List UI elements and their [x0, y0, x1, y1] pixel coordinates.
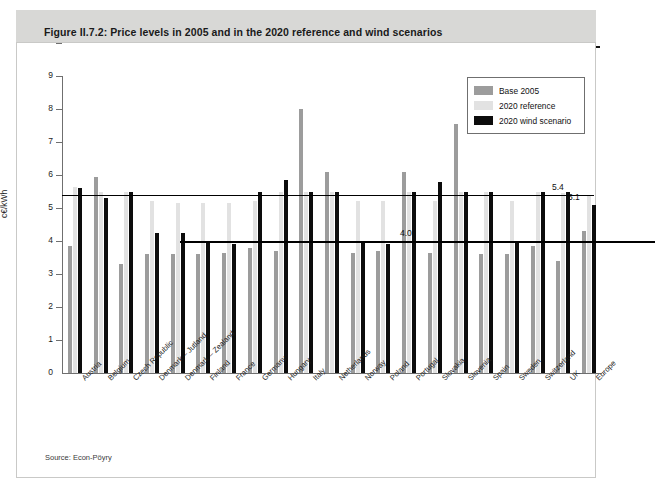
bar-base	[505, 254, 509, 373]
bar-group	[325, 76, 339, 373]
bar-base	[68, 246, 72, 373]
bar-group	[196, 76, 210, 373]
bar-wind	[566, 192, 570, 374]
bar-wind	[78, 188, 82, 373]
bar-ref	[150, 201, 154, 373]
bar-ref	[124, 192, 128, 374]
bar-ref	[99, 192, 103, 374]
x-tick-label: France	[234, 376, 240, 382]
legend-item-base: Base 2005	[474, 83, 578, 98]
y-tick-mark	[56, 109, 62, 110]
bar-ref	[253, 201, 257, 373]
annotation-europe-wind-bar: 5.1	[568, 192, 580, 202]
bar-ref	[73, 187, 77, 373]
figure-title: Figure II.7.2: Price levels in 2005 and …	[44, 26, 442, 38]
bar-ref	[484, 192, 488, 374]
x-tick-label: Slovakia	[440, 376, 446, 382]
bar-wind	[592, 205, 596, 373]
bar-base	[376, 251, 380, 373]
bar-ref	[536, 192, 540, 374]
x-tick-label: Denmark – Jutland	[157, 376, 163, 382]
bar-wind	[515, 241, 519, 373]
bar-wind	[386, 244, 390, 373]
bar-base	[582, 231, 586, 373]
bar-ref	[510, 201, 514, 373]
bar-wind	[258, 192, 262, 374]
bar-group	[145, 76, 159, 373]
x-tick-label: Czech Republic	[131, 376, 137, 382]
bar-ref	[330, 192, 334, 374]
annotation-reference-line-upper: 5.4	[552, 182, 564, 192]
bar-wind	[232, 244, 236, 373]
legend-label-reference: 2020 reference	[499, 101, 555, 111]
x-tick-label: Italy	[311, 376, 317, 382]
y-tick-mark	[56, 208, 62, 209]
bar-group	[454, 76, 468, 373]
x-tick-label: Switzerland	[543, 376, 549, 382]
bar-base	[119, 264, 123, 373]
y-tick-mark	[56, 175, 62, 176]
bar-ref	[356, 201, 360, 373]
bar-group	[299, 76, 313, 373]
bar-base	[556, 261, 560, 373]
x-tick-label: Portugal	[414, 376, 420, 382]
y-tick-mark	[56, 340, 62, 341]
reference-line-lower	[180, 241, 655, 243]
bar-wind	[129, 192, 133, 374]
bar-wind	[309, 192, 313, 374]
bar-ref	[407, 192, 411, 374]
y-tick-mark	[56, 241, 62, 242]
x-tick-label: Austria	[80, 376, 86, 382]
bar-ref	[459, 192, 463, 374]
bar-group	[274, 76, 288, 373]
bar-ref	[587, 195, 591, 373]
bar-base	[274, 251, 278, 373]
bar-group	[428, 76, 442, 373]
annotation-reference-line-lower: 4.0	[400, 228, 412, 238]
bar-base	[248, 248, 252, 373]
chart-frame: 0123456789 c€/kWh 5.44.05.1 AustriaBelgi…	[16, 42, 596, 478]
legend-swatch-wind-icon	[474, 116, 493, 125]
bar-base	[145, 254, 149, 373]
y-tick-mark	[56, 142, 62, 143]
y-tick-mark	[56, 274, 62, 275]
bar-group	[94, 76, 108, 373]
x-tick-label: Slovenia	[466, 376, 472, 382]
bar-group	[402, 76, 416, 373]
bar-ref	[561, 193, 565, 373]
legend-swatch-base-icon	[474, 86, 493, 95]
reference-line-upper	[62, 195, 594, 197]
x-tick-label: Spain	[491, 376, 497, 382]
bar-group	[351, 76, 365, 373]
bar-ref	[304, 192, 308, 374]
legend-item-reference: 2020 reference	[474, 98, 578, 113]
bar-base	[171, 254, 175, 373]
x-tick-label: Finland	[208, 376, 214, 382]
x-tick-label: UK	[568, 376, 574, 382]
bar-wind	[438, 182, 442, 373]
bar-base	[222, 253, 226, 373]
bar-wind	[284, 180, 288, 373]
x-tick-label: Netherlands	[337, 376, 343, 382]
bar-group	[68, 76, 82, 373]
bar-base	[196, 254, 200, 373]
bar-ref	[433, 201, 437, 373]
y-tick-mark	[56, 307, 62, 308]
x-tick-label: Hungary	[286, 376, 292, 382]
x-tick-label: Norway	[363, 376, 369, 382]
bar-ref	[381, 201, 385, 373]
x-tick-label: Sweden	[517, 376, 523, 382]
bar-group	[248, 76, 262, 373]
figure-title-band: Figure II.7.2: Price levels in 2005 and …	[16, 10, 596, 42]
legend-item-wind: 2020 wind scenario	[474, 113, 578, 128]
bar-ref	[201, 203, 205, 373]
y-tick-mark	[56, 43, 62, 44]
y-axis-title: c€/kWh	[0, 190, 9, 218]
legend-label-wind: 2020 wind scenario	[499, 116, 571, 126]
bar-ref	[227, 203, 231, 373]
bar-wind	[412, 192, 416, 374]
bar-base	[531, 246, 535, 373]
bar-group	[119, 76, 133, 373]
x-tick-label: Denmark – Zealand	[183, 376, 189, 382]
x-tick-label: Europe	[594, 376, 600, 382]
